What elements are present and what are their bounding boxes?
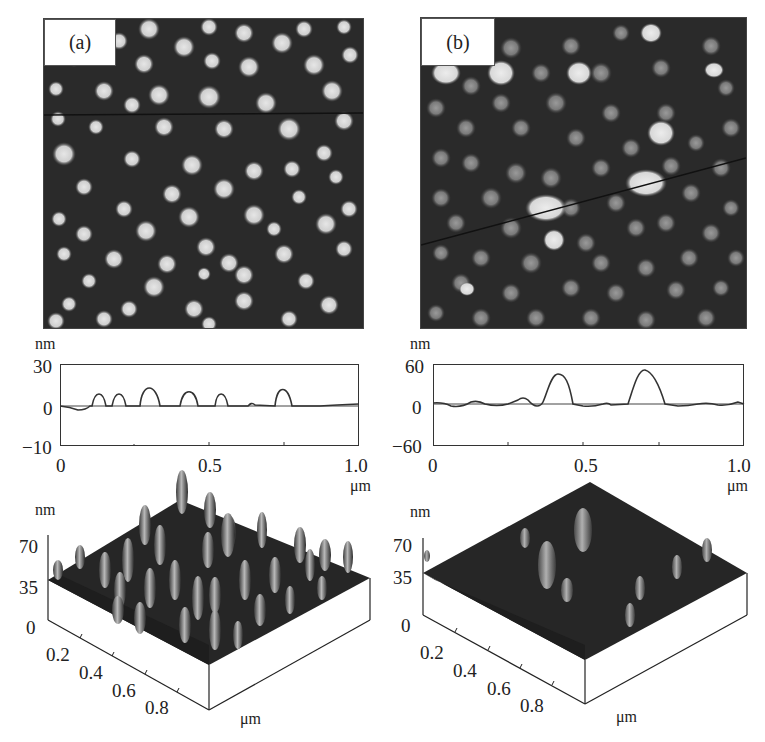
- profile-a-y-unit: nm: [35, 336, 55, 352]
- profile-a-plot: [60, 364, 360, 448]
- surface3d-b-x-tick: 0.6: [487, 679, 511, 698]
- surface3d-b-z-tick: 35: [393, 568, 412, 587]
- afm-image-a: (a): [43, 18, 364, 329]
- surface3d-a-z-tick: 35: [19, 578, 38, 597]
- profile-a-y-tick: 0: [43, 399, 53, 418]
- profile-a-y-tick: 30: [33, 357, 52, 376]
- surface3d-a-x-tick: 0.6: [112, 681, 136, 700]
- surface3d-a-xy-unit: μm: [240, 711, 261, 727]
- panel-label-b: (b): [421, 18, 495, 66]
- surface3d-b-z-unit: nm: [410, 504, 430, 520]
- profile-b-y-tick: 60: [405, 357, 424, 376]
- surface3d-b-x-tick: 0.2: [420, 643, 444, 662]
- surface3d-a-x-tick: 0.8: [145, 698, 169, 717]
- profile-b-y-unit: nm: [410, 336, 430, 352]
- surface3d-a-x-tick: 0.4: [79, 663, 103, 682]
- surface3d-a: [0, 470, 380, 742]
- panel-label-a: (a): [44, 19, 116, 66]
- surface3d-b-x-tick: 0.4: [453, 661, 477, 680]
- surface3d-a-z-tick: 0: [26, 618, 36, 637]
- surface3d-b: [385, 470, 765, 742]
- surface3d-b-z-tick: 70: [393, 536, 412, 555]
- surface3d-a-x-tick: 0.2: [46, 645, 70, 664]
- profile-b-y-tick: −60: [392, 437, 422, 456]
- surface3d-a-z-tick: 70: [19, 537, 38, 556]
- surface3d-b-z-tick: 0: [401, 616, 411, 635]
- surface3d-a-z-unit: nm: [35, 502, 55, 518]
- profile-a-y-tick: −10: [22, 438, 52, 457]
- profile-b-plot: [433, 364, 745, 448]
- surface3d-b-xy-unit: μm: [616, 709, 637, 725]
- profile-b-y-tick: 0: [412, 398, 422, 417]
- afm-image-b: (b): [420, 17, 747, 329]
- surface3d-b-x-tick: 0.8: [520, 696, 544, 715]
